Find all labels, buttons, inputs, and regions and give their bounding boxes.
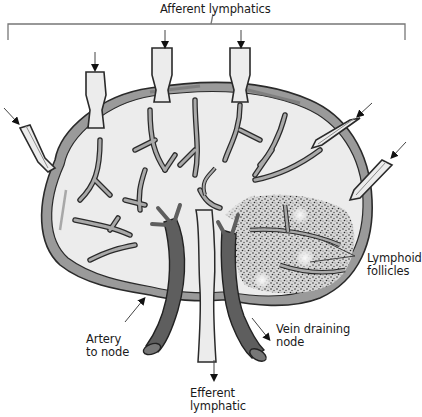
diagram-canvas — [0, 0, 422, 417]
label-lymphoid-follicles: Lymphoid follicles — [367, 252, 422, 278]
lymph-node-diagram: Afferent lymphatics Artery to node Effer… — [0, 0, 422, 417]
arrow-icon — [4, 108, 17, 122]
label-afferent-lymphatics-text: Afferent lymphatics — [160, 3, 271, 16]
label-efferent-lymphatic: Efferent lymphatic — [190, 387, 246, 413]
vein-arrow-icon — [252, 318, 268, 338]
germinal-center — [253, 271, 271, 289]
afferent-vessel-4 — [230, 48, 250, 102]
afferent-bracket — [8, 14, 405, 40]
arrow-icon — [393, 142, 406, 156]
afferent-vessel-3 — [152, 48, 172, 102]
afferent-vessel-2 — [86, 72, 106, 128]
label-vein-line2: node — [276, 336, 350, 349]
label-vein: Vein draining node — [276, 323, 350, 349]
label-follicles-line2: follicles — [367, 265, 422, 278]
afferent-vessel-1 — [20, 125, 55, 172]
label-afferent-lymphatics: Afferent lymphatics — [160, 3, 271, 16]
germinal-center — [295, 248, 315, 268]
lymphoid-follicles — [225, 195, 354, 293]
label-artery-line2: to node — [86, 346, 129, 359]
label-artery: Artery to node — [86, 333, 129, 359]
germinal-center — [291, 206, 309, 224]
label-efferent-line2: lymphatic — [190, 400, 246, 413]
artery-arrow-icon — [125, 300, 143, 322]
arrow-icon — [359, 103, 372, 115]
